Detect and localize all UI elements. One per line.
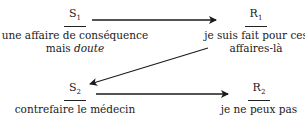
node-s1-description: une affaire de conséquence mais doute xyxy=(0,29,150,55)
node-r2-description: je ne peux pas xyxy=(204,103,305,116)
node-s2-label: S2 xyxy=(64,81,86,101)
node-r1-description: je suis fait pour ces affaires-là xyxy=(196,29,305,55)
node-r1: R1 je suis fait pour ces affaires-là xyxy=(196,7,305,55)
node-s1: S1 une affaire de conséquence mais doute xyxy=(0,7,150,55)
node-r2-label: R2 xyxy=(248,81,271,101)
node-s2: S2 contrefaire le médecin xyxy=(0,81,150,116)
node-r1-label: R1 xyxy=(245,7,268,27)
node-s2-description: contrefaire le médecin xyxy=(0,103,150,116)
node-r2: R2 je ne peux pas xyxy=(204,81,305,116)
node-s1-label: S1 xyxy=(64,7,86,27)
